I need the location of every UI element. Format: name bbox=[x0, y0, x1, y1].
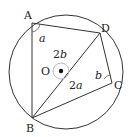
angle-label-b: b bbox=[95, 69, 102, 82]
angle-label-2b: 2b bbox=[53, 48, 67, 61]
angle-label-2b-var: b bbox=[60, 48, 67, 61]
label-c: C bbox=[114, 79, 122, 92]
label-o: O bbox=[41, 65, 50, 78]
angle-label-2a: 2a bbox=[69, 79, 83, 92]
angle-label-a: a bbox=[39, 32, 46, 45]
label-a: A bbox=[23, 9, 33, 22]
circle-diagram: A D C B O a b 2b 2a bbox=[0, 0, 134, 137]
label-d: D bbox=[101, 22, 110, 35]
center-point-o bbox=[59, 69, 63, 73]
angle-arc-b bbox=[104, 75, 110, 79]
label-b: B bbox=[26, 122, 34, 135]
angle-label-2a-var: a bbox=[76, 79, 83, 92]
